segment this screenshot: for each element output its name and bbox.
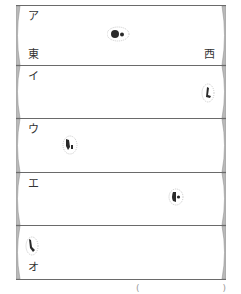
right-curved-edge (218, 119, 226, 172)
right-curved-edge (218, 173, 226, 225)
panel-e: エ (16, 173, 226, 226)
blob-marker-icon (107, 26, 131, 42)
panel-label: オ (28, 262, 39, 273)
blob-marker-icon (62, 135, 78, 155)
right-curved-edge (218, 6, 226, 65)
blob-marker-icon (25, 236, 39, 256)
blob-marker-icon (168, 188, 184, 206)
west-label: 西 (204, 49, 215, 60)
bracket-right: ) (222, 284, 226, 293)
panel-u: ウ (16, 119, 226, 173)
panel-i: イ (16, 66, 226, 119)
bracket-left: ( (136, 284, 140, 293)
left-curved-edge (16, 6, 24, 65)
left-curved-edge (16, 226, 24, 279)
blob-marker-icon (201, 83, 215, 103)
left-curved-edge (16, 66, 24, 118)
panel-o: オ (16, 226, 226, 279)
strip-diagram: ア 東 西 イ ウ (16, 5, 226, 280)
panel-label: エ (28, 178, 39, 189)
left-curved-edge (16, 119, 24, 172)
panel-label: イ (28, 71, 39, 82)
panel-label: ア (28, 11, 39, 22)
panel-label: ウ (28, 124, 39, 135)
east-label: 東 (28, 49, 39, 60)
right-curved-edge (218, 66, 226, 118)
footer-bracket-marks: ( ) (136, 284, 226, 294)
panel-a: ア 東 西 (16, 6, 226, 66)
left-curved-edge (16, 173, 24, 225)
right-curved-edge (218, 226, 226, 279)
